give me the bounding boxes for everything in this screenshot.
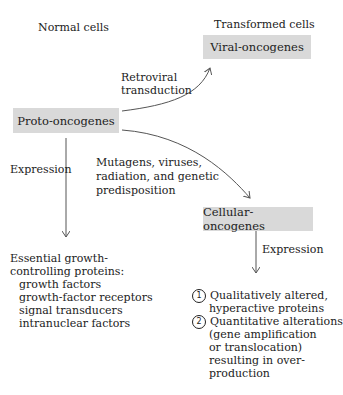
retroviral-label-1: Retroviral [121,71,177,84]
transformed-item-2-line: resulting in over- [209,354,305,367]
normal-outcome-line2: controlling proteins: [10,265,124,278]
transformed-item-2-line: or translocation) [209,341,302,354]
mutagens-label-3: predisposition [96,184,176,197]
normal-outcome-item: growth-factor receptors [10,291,153,304]
number-1-circle-icon: 1 [192,289,206,303]
normal-outcome-item: signal transducers [10,304,123,317]
transformed-item-1-line2: hyperactive proteins [209,302,324,315]
transformed-item-2: 2Quantitative alterations [192,315,343,329]
transformed-item-2-line: (gene amplification [209,328,317,341]
proto-oncogenes-box: Proto-oncogenes [13,108,119,133]
transformed-item-2-line: production [209,367,270,380]
retroviral-label-2: transduction [121,84,192,97]
expression-label-left: Expression [10,163,72,176]
viral-oncogenes-box: Viral-oncogenes [203,35,311,59]
normal-outcome-item: intranuclear factors [10,317,130,330]
cellular-oncogenes-box: Cellular-oncogenes [203,207,313,231]
normal-cells-header: Normal cells [38,21,109,34]
mutagens-label-1: Mutagens, viruses, [96,156,202,169]
normal-outcome-item: growth factors [10,278,101,291]
normal-outcome-line1: Essential growth- [10,252,108,265]
expression-label-right: Expression [262,243,324,256]
mutagens-label-2: radiation, and genetic [96,170,219,183]
number-2-circle-icon: 2 [192,315,206,329]
transformed-item-1: 1Qualitatively altered, [192,289,328,303]
transformed-cells-header: Transformed cells [214,18,315,31]
